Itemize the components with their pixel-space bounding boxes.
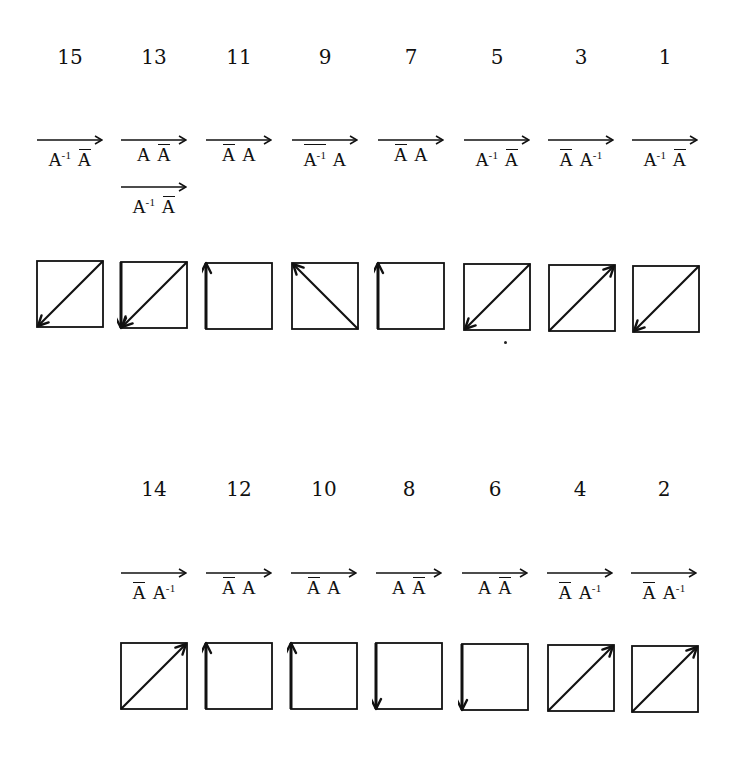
- expression: A-1A: [34, 145, 106, 170]
- figure-number: 12: [226, 477, 251, 501]
- right-arrow-icon: [37, 135, 103, 145]
- bar-operator-symbol: A: [412, 578, 426, 598]
- composition-label: AA: [118, 135, 190, 165]
- square-diag-down-left+left-down-icon: [117, 258, 191, 332]
- square-diag-down-left-icon: [629, 262, 703, 336]
- expression: AA: [203, 578, 275, 598]
- composition-label: A-1A: [34, 135, 106, 170]
- figure-number: 15: [57, 45, 82, 69]
- right-arrow-icon: [121, 182, 187, 192]
- right-arrow-icon: [378, 135, 444, 145]
- expression: AA: [203, 145, 275, 165]
- expression: AA-1: [544, 578, 616, 603]
- right-arrow-icon: [632, 135, 698, 145]
- expression: AA: [288, 578, 360, 598]
- operator-symbol: A-1: [579, 145, 602, 170]
- square-diag-up-right-icon: [544, 641, 618, 715]
- operator-symbol: A: [242, 578, 256, 598]
- bar-operator-symbol: A: [132, 583, 146, 603]
- expression: AA-1: [545, 145, 617, 170]
- composition-label: A-1A: [629, 135, 701, 170]
- square-diag-down-left-icon: [33, 257, 107, 331]
- composition-label: AA: [375, 135, 447, 165]
- right-arrow-icon: [631, 568, 697, 578]
- figure-number: 5: [491, 45, 504, 69]
- figure-number: 4: [574, 477, 587, 501]
- operator-symbol: A-1: [48, 145, 71, 170]
- figure-number: 8: [403, 477, 416, 501]
- inverse-superscript: -1: [488, 149, 498, 161]
- operator-symbol: A-1: [152, 578, 175, 603]
- operator-symbol: A-1: [132, 192, 155, 217]
- bar-operator-symbol: A: [673, 150, 687, 170]
- right-arrow-icon: [121, 135, 187, 145]
- composition-label: AA: [203, 568, 275, 598]
- expression: AA: [459, 578, 531, 598]
- figure-number: 2: [658, 477, 671, 501]
- composition-label: AA: [459, 568, 531, 598]
- operator-symbol: A: [478, 578, 492, 598]
- figure-number: 11: [226, 45, 251, 69]
- figure-number: 13: [141, 45, 166, 69]
- square-diag-up-right-icon: [545, 261, 619, 335]
- right-arrow-icon: [548, 135, 614, 145]
- composition-label: A-1A: [461, 135, 533, 170]
- square-left-down-icon: [372, 639, 446, 713]
- inverse-superscript: -1: [166, 582, 176, 594]
- expression: A-1A: [289, 145, 361, 170]
- figure-number: 1: [659, 45, 672, 69]
- square-left-up-icon: [202, 259, 276, 333]
- operator-symbol: A: [333, 150, 347, 170]
- figure-number: 3: [575, 45, 588, 69]
- bar-operator-symbol: A: [498, 578, 512, 598]
- square-left-up-icon: [287, 639, 361, 713]
- inverse-superscript: -1: [593, 149, 603, 161]
- operator-symbol: A-1: [475, 145, 498, 170]
- square-diag-up-right-icon: [117, 639, 191, 713]
- expression: AA-1: [118, 578, 190, 603]
- bar-operator-symbol: A: [558, 583, 572, 603]
- square-diag-down-left-icon: [460, 260, 534, 334]
- composition-label: AA: [373, 568, 445, 598]
- operator-symbol: A: [392, 578, 406, 598]
- right-arrow-icon: [206, 568, 272, 578]
- composition-label: AA-1: [118, 568, 190, 603]
- bar-operator-symbol: A: [394, 145, 408, 165]
- composition-label: AA: [288, 568, 360, 598]
- expression: AA: [118, 145, 190, 165]
- figure-number: 7: [405, 45, 418, 69]
- inverse-superscript: -1: [676, 582, 686, 594]
- operator-symbol: A: [137, 145, 151, 165]
- operator-symbol: A-1: [662, 578, 685, 603]
- inverse-superscript: -1: [592, 582, 602, 594]
- stray-dot: [504, 341, 507, 344]
- right-arrow-icon: [121, 568, 187, 578]
- bar-operator-symbol: A: [78, 150, 92, 170]
- composition-label: AA-1: [545, 135, 617, 170]
- expression: AA: [375, 145, 447, 165]
- bar-operator-symbol: A: [559, 150, 573, 170]
- right-arrow-icon: [291, 568, 357, 578]
- expression: AA-1: [628, 578, 700, 603]
- composition-label: AA: [203, 135, 275, 165]
- inverse-superscript: -1: [656, 149, 666, 161]
- composition-label: A-1A: [289, 135, 361, 170]
- bar-operator-symbol: A: [642, 583, 656, 603]
- operator-symbol: A-1: [578, 578, 601, 603]
- right-arrow-icon: [206, 135, 272, 145]
- square-left-up-icon: [202, 639, 276, 713]
- operator-symbol: A: [414, 145, 428, 165]
- right-arrow-icon: [464, 135, 530, 145]
- square-left-up-icon: [374, 259, 448, 333]
- expression: AA: [373, 578, 445, 598]
- figure-number: 6: [489, 477, 502, 501]
- bar-operator-symbol: A-1: [303, 145, 326, 170]
- bar-operator-symbol: A: [157, 145, 171, 165]
- right-arrow-icon: [376, 568, 442, 578]
- square-anti-diag-up-left-icon: [288, 259, 362, 333]
- operator-symbol: A: [327, 578, 341, 598]
- composition-label: AA-1: [544, 568, 616, 603]
- bar-operator-symbol: A: [307, 578, 321, 598]
- bar-operator-symbol: A: [222, 578, 236, 598]
- operator-symbol: A: [242, 145, 256, 165]
